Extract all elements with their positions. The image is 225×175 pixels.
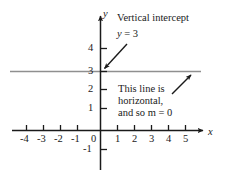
slope-variable: m <box>148 107 156 118</box>
y-tick-label-2: 2 <box>88 83 93 94</box>
y-tick-label-neg1: -1 <box>83 143 92 154</box>
intercept-equation-label: y = 3 <box>117 28 138 39</box>
vertical-intercept-label: Vertical intercept <box>117 12 189 23</box>
x-axis-label: x <box>208 126 213 137</box>
x-tick-label-1: 1 <box>115 133 120 144</box>
line-note-leader-arrow <box>172 75 191 94</box>
line-note-line-2: horizontal, <box>118 95 172 107</box>
y-tick-label-4: 4 <box>88 42 93 53</box>
x-axis <box>12 125 203 131</box>
graph-canvas <box>0 0 225 175</box>
origin-label: 0 <box>91 133 96 144</box>
intercept-leader-arrow <box>105 44 128 69</box>
y-tick-label-1: 1 <box>88 102 93 113</box>
x-tick-label-neg1: -1 <box>71 133 80 144</box>
intercept-equation-value: = 3 <box>122 28 138 39</box>
y-tick-label-3: 3 <box>88 65 93 76</box>
y-axis-label: y <box>103 8 108 19</box>
x-tick-label-5: 5 <box>183 133 188 144</box>
graph-figure: y x -4 -3 -2 -1 0 1 2 3 4 5 4 3 2 1 -1 V… <box>0 0 225 175</box>
x-tick-label-3: 3 <box>149 133 154 144</box>
line-note-block: This line is horizontal, and so m = 0 <box>118 83 172 119</box>
x-tick-label-neg3: -3 <box>37 133 46 144</box>
x-tick-label-neg4: -4 <box>20 133 29 144</box>
slope-value: = 0 <box>156 107 172 118</box>
line-note-prefix: and so <box>118 107 148 118</box>
line-note-line-3: and so m = 0 <box>118 107 172 119</box>
y-axis <box>101 16 108 170</box>
x-tick-label-neg2: -2 <box>54 133 63 144</box>
line-note-line-1: This line is <box>118 83 172 95</box>
x-tick-label-2: 2 <box>132 133 137 144</box>
x-tick-label-4: 4 <box>166 133 171 144</box>
